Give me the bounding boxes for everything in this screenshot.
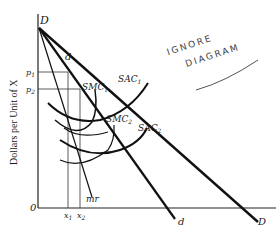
y-axis-label: Dollars per Unit of X bbox=[8, 79, 19, 165]
p1-label: p1 bbox=[26, 68, 35, 78]
annotation-underline bbox=[196, 60, 258, 90]
economics-diagram: 0 D D d d mr p1 p2 x1 x2 SMC1 SAC1 SMC2 … bbox=[0, 0, 278, 230]
origin-label: 0 bbox=[30, 202, 37, 213]
smc1-label: SMC1 bbox=[82, 82, 108, 93]
p2-label: p2 bbox=[26, 85, 35, 95]
handwritten-annotation: IGNORE DIAGRAM bbox=[166, 26, 241, 73]
demand-d-end-label: d bbox=[178, 216, 184, 227]
sac2-label: SAC2 bbox=[138, 123, 162, 134]
sac1-label: SAC1 bbox=[118, 74, 141, 85]
sac2-curve bbox=[60, 128, 147, 153]
demand-D-top-label: D bbox=[39, 14, 49, 27]
mr-label: mr bbox=[86, 194, 100, 204]
smc1-curve bbox=[55, 90, 96, 131]
x2-label: x2 bbox=[77, 211, 86, 221]
smc2-label: SMC2 bbox=[106, 114, 132, 125]
demand-D-end-label: D bbox=[257, 216, 266, 227]
x1-label: x1 bbox=[64, 211, 72, 221]
demand-d-top-label: d bbox=[65, 51, 71, 62]
